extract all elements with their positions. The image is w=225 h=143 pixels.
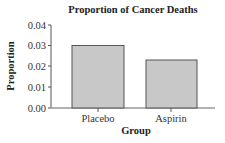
bar-placebo: [72, 46, 124, 109]
x-tick-label: Placebo: [81, 113, 114, 124]
chart: Proportion of Cancer Deaths 0.00 0.01 0.…: [0, 0, 225, 143]
y-tick-label: 0.02: [28, 61, 46, 72]
bar-aspirin: [146, 60, 197, 108]
y-tick-label: 0.01: [28, 82, 46, 93]
y-tick-label: 0.00: [28, 103, 46, 114]
y-tick-label: 0.03: [28, 40, 46, 51]
y-tick-label: 0.04: [28, 20, 47, 31]
x-tick-label: Aspirin: [155, 113, 187, 124]
y-axis-label: Proportion: [5, 41, 16, 91]
chart-title: Proportion of Cancer Deaths: [68, 4, 197, 15]
x-axis-label: Group: [121, 125, 151, 136]
